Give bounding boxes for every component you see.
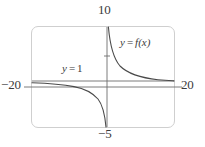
y-axis-min-label: −5 — [98, 126, 111, 142]
asymptote-label-equals: = — [69, 62, 75, 74]
graph-screenshot: 10 −5 −20 20 y=f(x) y=1 — [0, 0, 205, 147]
x-axis-min-label: −20 — [1, 77, 21, 93]
curve-label-f-of-x: y=f(x) — [120, 36, 150, 48]
curve-label-y: y — [120, 36, 125, 48]
asymptote-label-y: y — [62, 62, 67, 74]
y-axis-max-label: 10 — [98, 2, 111, 18]
curve-label-fx: f(x) — [135, 36, 150, 48]
asymptote-label-value: 1 — [77, 62, 83, 74]
asymptote-label-y-equals-1: y=1 — [62, 62, 83, 74]
curve-label-equals: = — [127, 36, 133, 48]
x-axis-max-label: 20 — [181, 77, 194, 93]
curve-left-branch — [32, 83, 106, 127]
plot-canvas — [0, 0, 205, 147]
